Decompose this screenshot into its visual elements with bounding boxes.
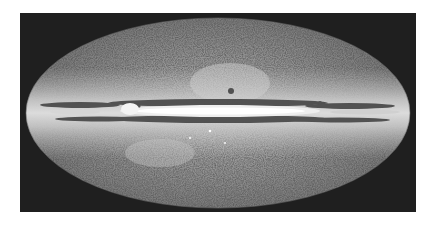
all-sky-map: [20, 13, 416, 212]
sky-map-frame: [20, 13, 416, 212]
sky-ellipse: [20, 13, 416, 212]
